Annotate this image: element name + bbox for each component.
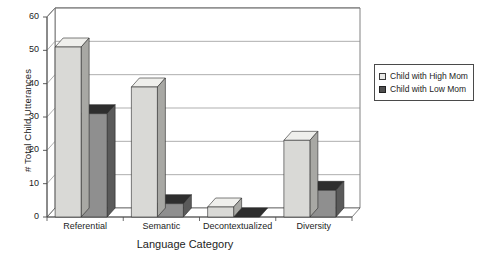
- x-tick-label: Diversity: [254, 221, 374, 231]
- light-square-icon: [379, 73, 386, 80]
- y-tick-label: 60: [17, 12, 39, 21]
- y-tick-label: 30: [17, 112, 39, 121]
- legend-label-high: Child with High Mom: [390, 72, 468, 81]
- legend-item-high: Child with High Mom: [379, 70, 468, 82]
- bar-chart: # Total Child Utterances 0102030405060 R…: [0, 0, 487, 263]
- chart-legend: Child with High Mom Child with Low Mom: [374, 64, 474, 101]
- y-tick-label: 20: [17, 145, 39, 154]
- y-tick-label: 0: [17, 212, 39, 221]
- legend-label-low: Child with Low Mom: [390, 85, 466, 94]
- y-tick-label: 10: [17, 179, 39, 188]
- y-tick-label: 50: [17, 45, 39, 54]
- y-tick-label: 40: [17, 79, 39, 88]
- dark-square-icon: [379, 86, 386, 93]
- legend-item-low: Child with Low Mom: [379, 83, 468, 95]
- x-axis-title: Language Category: [0, 238, 370, 250]
